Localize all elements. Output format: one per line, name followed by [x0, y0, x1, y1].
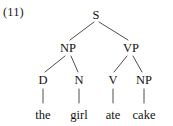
tree-edge-s-to-np: [70, 22, 94, 40]
tree-node-v: V: [108, 74, 117, 87]
tree-node-n: N: [74, 74, 83, 87]
tree-edge-np-to-d: [45, 56, 65, 72]
tree-node-vp: VP: [123, 42, 139, 55]
tree-node-np-object: NP: [136, 74, 152, 87]
tree-node-d: D: [38, 74, 47, 87]
tree-edge-vp-to-np: [133, 56, 142, 72]
tree-node-s: S: [93, 9, 100, 22]
tree-terminal-ate: ate: [106, 109, 121, 122]
syntax-tree-figure: (11) S NP VP D N V NP the girl ate cake: [0, 0, 173, 126]
tree-terminal-girl: girl: [70, 109, 87, 122]
tree-edge-vp-to-v: [114, 56, 127, 72]
tree-edge-np-to-n: [71, 56, 78, 72]
tree-terminal-the: the: [35, 109, 50, 122]
tree-edge-s-to-vp: [99, 22, 128, 40]
tree-node-np-subject: NP: [60, 42, 76, 55]
tree-terminal-cake: cake: [133, 109, 156, 122]
